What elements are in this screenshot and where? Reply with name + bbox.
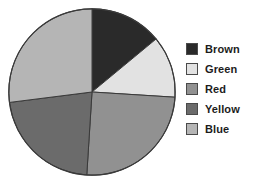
legend-label-green: Green [205,63,237,75]
legend-item-blue[interactable]: Blue [186,119,254,139]
legend-swatch-brown [186,43,198,55]
pie-slice-blue[interactable] [9,9,92,103]
legend-swatch-green [186,63,198,75]
pie-slice-group [9,9,175,175]
legend-label-yellow: Yellow [205,103,240,115]
legend-label-red: Red [205,83,226,95]
pie-chart-svg [8,8,176,176]
chart-legend: Brown Green Red Yellow Blue [186,39,254,139]
legend-item-green[interactable]: Green [186,59,254,79]
pie-slice-yellow[interactable] [9,92,92,175]
pie-slice-red[interactable] [87,92,175,175]
pie-chart-figure: Brown Green Red Yellow Blue [0,0,255,187]
legend-swatch-blue [186,123,198,135]
legend-swatch-red [186,83,198,95]
legend-item-brown[interactable]: Brown [186,39,254,59]
legend-item-red[interactable]: Red [186,79,254,99]
legend-item-yellow[interactable]: Yellow [186,99,254,119]
pie-chart-plot-area [8,8,176,176]
legend-label-blue: Blue [205,123,229,135]
legend-swatch-yellow [186,103,198,115]
legend-label-brown: Brown [205,43,240,55]
